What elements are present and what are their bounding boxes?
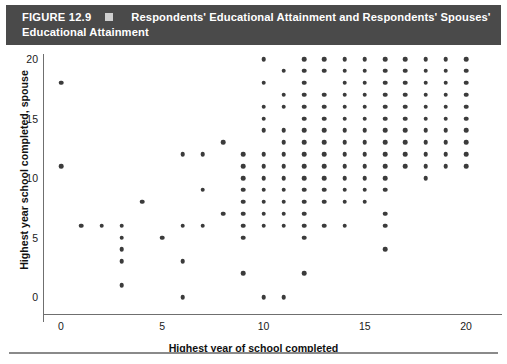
data-point (362, 92, 367, 97)
data-point (261, 128, 266, 133)
data-point (322, 69, 327, 74)
data-point (403, 69, 408, 74)
data-point (464, 69, 469, 74)
data-point (383, 128, 388, 133)
data-point (200, 223, 205, 228)
data-point (281, 295, 286, 300)
data-point (302, 271, 307, 276)
data-point (119, 283, 124, 288)
data-point (322, 128, 327, 133)
data-point (342, 140, 347, 145)
data-point (383, 92, 388, 97)
data-point (302, 128, 307, 133)
data-point (443, 116, 448, 121)
data-point (362, 164, 367, 169)
data-point (342, 104, 347, 109)
data-point (322, 92, 327, 97)
data-point (342, 188, 347, 193)
data-point (59, 164, 64, 169)
data-point (342, 223, 347, 228)
data-point (383, 176, 388, 181)
data-point (423, 176, 428, 181)
data-point (423, 92, 428, 97)
data-point (423, 128, 428, 133)
data-point (464, 116, 469, 121)
data-point (423, 140, 428, 145)
data-point (281, 128, 286, 133)
data-point (423, 69, 428, 74)
data-point (302, 116, 307, 121)
x-axis-line (43, 314, 502, 315)
data-point (302, 152, 307, 157)
figure-title-part-2: Educational Attainment (22, 26, 491, 38)
data-point (180, 295, 185, 300)
data-point (281, 176, 286, 181)
data-point (362, 176, 367, 181)
data-point (302, 140, 307, 145)
y-tick-label: 20 (12, 53, 38, 65)
data-point (281, 140, 286, 145)
data-point (464, 140, 469, 145)
data-point (403, 81, 408, 86)
data-point (281, 164, 286, 169)
data-point (383, 247, 388, 252)
x-tick-label: 15 (359, 320, 371, 332)
data-point (403, 152, 408, 157)
data-point (302, 164, 307, 169)
data-point (362, 200, 367, 205)
data-point (322, 223, 327, 228)
data-point (362, 128, 367, 133)
x-tick-label: 0 (58, 320, 64, 332)
data-point (464, 92, 469, 97)
data-point (281, 104, 286, 109)
data-point (362, 57, 367, 62)
data-point (322, 164, 327, 169)
figure-header: FIGURE 12.9 Respondents' Educational Att… (6, 5, 501, 45)
data-point (443, 81, 448, 86)
data-point (221, 211, 226, 216)
data-point (302, 104, 307, 109)
y-tick-label: 15 (12, 113, 38, 125)
data-point (443, 140, 448, 145)
data-point (302, 69, 307, 74)
data-point (261, 295, 266, 300)
data-point (342, 69, 347, 74)
data-point (302, 176, 307, 181)
data-point (464, 104, 469, 109)
bottom-divider (9, 352, 498, 354)
data-point (241, 176, 246, 181)
data-point (362, 104, 367, 109)
data-point (464, 152, 469, 157)
x-tick-label: 10 (258, 320, 270, 332)
data-point (241, 152, 246, 157)
data-point (383, 211, 388, 216)
data-point (241, 188, 246, 193)
data-point (423, 81, 428, 86)
data-point (443, 104, 448, 109)
data-point (403, 104, 408, 109)
data-point (443, 69, 448, 74)
data-point (342, 152, 347, 157)
data-point (302, 200, 307, 205)
data-point (423, 152, 428, 157)
data-point (322, 200, 327, 205)
figure-header-line-1: FIGURE 12.9 Respondents' Educational Att… (22, 11, 491, 23)
data-point (362, 188, 367, 193)
data-point (200, 152, 205, 157)
data-point (322, 104, 327, 109)
data-point (281, 211, 286, 216)
data-point (302, 188, 307, 193)
data-point (322, 176, 327, 181)
data-point (302, 211, 307, 216)
data-point (119, 223, 124, 228)
data-point (383, 164, 388, 169)
data-point (464, 128, 469, 133)
data-point (342, 200, 347, 205)
data-point (281, 200, 286, 205)
data-point (241, 164, 246, 169)
data-point (383, 152, 388, 157)
data-point (403, 57, 408, 62)
y-tick-label: 0 (12, 291, 38, 303)
data-point (180, 223, 185, 228)
data-point (281, 92, 286, 97)
